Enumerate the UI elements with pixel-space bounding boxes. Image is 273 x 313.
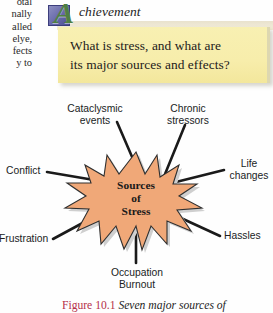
drop-cap-letter: A: [54, 0, 74, 28]
left-column-line: y to: [0, 57, 32, 69]
label-conflict: Conflict: [6, 165, 40, 177]
question-text: What is stress, and what are its major s…: [70, 36, 259, 74]
left-column-line: nally: [0, 8, 32, 20]
center-line-1: Sources: [117, 179, 155, 191]
stress-sources-diagram: Sources of Stress Cataclysmic events Chr…: [0, 95, 273, 295]
label-line: Frustration: [0, 233, 48, 245]
label-line: stressors: [154, 115, 222, 127]
label-life-changes: Life changes: [226, 158, 272, 182]
label-cataclysmic-events: Cataclysmic events: [58, 103, 132, 127]
figure-number: Figure 10.1: [62, 299, 115, 312]
label-line: Burnout: [95, 279, 179, 291]
left-column-line: alled: [0, 21, 32, 33]
center-line-2: of: [131, 192, 141, 204]
left-column-line: otal: [0, 0, 32, 8]
label-line: Life: [226, 158, 272, 170]
left-column-line: elye,: [0, 33, 32, 45]
diagram-svg: Sources of Stress: [0, 95, 273, 295]
figure-caption-text: Seven major sources of: [118, 299, 225, 312]
question-line-2: its major sources and effects?: [70, 55, 259, 74]
label-frustration: Frustration: [0, 233, 48, 245]
label-line: Conflict: [6, 165, 40, 177]
label-line: changes: [226, 170, 272, 182]
question-line-1: What is stress, and what are: [70, 36, 259, 55]
label-line: Chronic: [154, 103, 222, 115]
figure-caption: Figure 10.1 Seven major sources of: [62, 299, 273, 312]
achievement-label: chievement: [79, 4, 141, 20]
label-chronic-stressors: Chronic stressors: [154, 103, 222, 127]
left-column-line: fects: [0, 45, 32, 57]
label-hassles: Hassles: [224, 230, 261, 242]
label-line: Hassles: [224, 230, 261, 242]
textbook-page: otal nally alled elye, fects y to A chie…: [0, 0, 273, 313]
left-column-text: otal nally alled elye, fects y to: [0, 0, 32, 70]
label-occupation-burnout: Occupation Burnout: [95, 267, 179, 291]
label-line: events: [58, 115, 132, 127]
label-line: Cataclysmic: [58, 103, 132, 115]
label-line: Occupation: [95, 267, 179, 279]
center-line-3: Stress: [122, 205, 151, 217]
question-callout-box: What is stress, and what are its major s…: [58, 27, 270, 83]
